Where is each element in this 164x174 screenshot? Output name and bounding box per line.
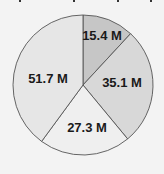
slice-label: 51.7 M (28, 71, 68, 86)
slice-label: 15.4 M (82, 28, 122, 43)
slice-label: 35.1 M (102, 75, 142, 90)
slice-label: 27.3 M (67, 120, 107, 135)
